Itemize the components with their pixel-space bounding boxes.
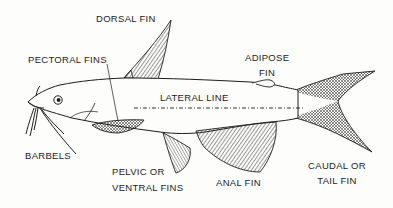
label-caudal-fin-line1: CAUDAL OR — [306, 160, 368, 172]
label-lateral-line: LATERAL LINE — [160, 92, 229, 104]
label-adipose-fin-line1: ADIPOSE — [245, 52, 289, 64]
label-pelvic-fins-line2: VENTRAL FINS — [112, 182, 183, 194]
label-anal-fin: ANAL FIN — [216, 177, 261, 189]
anal-fin — [196, 122, 276, 172]
label-caudal-fin-line2: TAIL FIN — [306, 175, 368, 187]
label-adipose-fin-line2: FIN — [245, 67, 289, 79]
label-dorsal-fin: DORSAL FIN — [96, 13, 156, 25]
label-pelvic-fins: PELVIC OR VENTRAL FINS — [112, 166, 183, 194]
catfish-anatomy-diagram: DORSAL FIN PECTORAL FINS ADIPOSE FIN LAT… — [0, 0, 393, 208]
label-barbels: BARBELS — [25, 150, 71, 162]
label-adipose-fin: ADIPOSE FIN — [245, 52, 289, 79]
label-pectoral-fins: PECTORAL FINS — [28, 54, 107, 66]
label-pelvic-fins-line1: PELVIC OR — [112, 166, 183, 178]
label-caudal-fin: CAUDAL OR TAIL FIN — [306, 160, 368, 187]
